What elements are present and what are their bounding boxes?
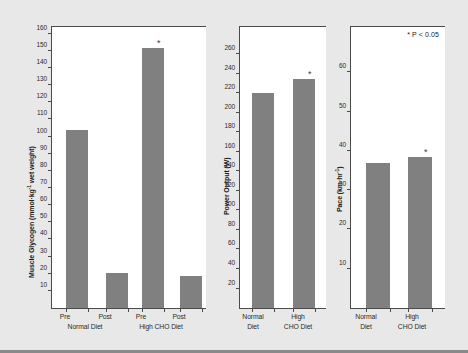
panel1-ytick-label-80: 80 [40, 160, 47, 167]
panel1-y-axis-title-tail: wet weight) [28, 146, 35, 185]
bar-pace-normal-diet [366, 163, 390, 308]
panel3-ytick-30 [347, 189, 351, 190]
panel3-y-axis-title-tail: ) [336, 167, 343, 169]
xlabel-post-high-cho: Post [165, 313, 193, 320]
bar-power-high-cho-diet [293, 79, 315, 308]
panel2-ytick-label-240: 240 [224, 63, 235, 70]
figure-container: Muscle Glycogen (mmol·kg-1 wet weight) 1… [0, 0, 468, 353]
panel3-xtick-3 [432, 308, 433, 312]
panel1-ytick-label-20: 20 [40, 263, 47, 270]
significance-marker-pre-high-cho: * [157, 40, 161, 46]
p-value-annotation: * P < 0.05 [407, 31, 439, 38]
panel2-ytick-label-160: 160 [224, 141, 235, 148]
panel3-plot-area: 10 20 30 40 50 60 * [350, 26, 445, 309]
panel1-ytick-label-100: 100 [36, 126, 47, 133]
panel3-xtick-2 [408, 308, 409, 312]
significance-marker-power-high-cho: * [308, 71, 312, 77]
panel1-plot-inner: 10 20 30 40 50 60 70 80 90 100 [52, 27, 206, 308]
panel3-ytick-label-20: 20 [339, 219, 346, 226]
panel2-xtick-0 [252, 308, 253, 312]
panel1-xtick-5 [164, 308, 165, 312]
bar-post-high-cho-diet [180, 276, 202, 308]
panel1-ytick-label-140: 140 [36, 57, 47, 64]
xlabel-pace-high-cho-line2: CHO Diet [388, 323, 436, 330]
panel1-ytick-50 [48, 221, 52, 222]
panel3-y-axis-title: Pace (km·hr-1) [334, 167, 343, 213]
panel-pace: Pace (km·hr-1) 10 20 30 40 50 60 * [330, 0, 468, 353]
xlabel-power-normal-line2: Diet [232, 323, 274, 330]
panel1-ytick-130 [48, 84, 52, 85]
panel3-ytick-40 [347, 150, 351, 151]
panel2-ytick-120 [236, 190, 240, 191]
xlabel-power-high-cho-line2: CHO Diet [275, 323, 321, 330]
panel1-ytick-140 [48, 67, 52, 68]
xlabel-pre-normal: Pre [51, 313, 79, 320]
panel2-ytick-160 [236, 151, 240, 152]
panel1-ytick-label-90: 90 [40, 143, 47, 150]
xlabel-post-normal: Post [91, 313, 119, 320]
panel2-ytick-220 [236, 92, 240, 93]
panel1-ytick-60 [48, 204, 52, 205]
panel1-ytick-150 [48, 50, 52, 51]
panel1-xtick-3 [128, 308, 129, 312]
panel2-ytick-label-140: 140 [224, 161, 235, 168]
panel2-ytick-label-20: 20 [228, 278, 235, 285]
panel3-ytick-label-50: 50 [339, 101, 346, 108]
panel1-ytick-70 [48, 187, 52, 188]
panel1-ytick-label-40: 40 [40, 229, 47, 236]
panel1-xtick-4 [142, 308, 143, 312]
panel1-ytick-110 [48, 118, 52, 119]
panel1-ytick-80 [48, 170, 52, 171]
panel2-ytick-label-180: 180 [224, 122, 235, 129]
panel2-ytick-20 [236, 288, 240, 289]
panel3-ytick-label-40: 40 [339, 140, 346, 147]
panel1-ytick-90 [48, 153, 52, 154]
panel2-ytick-label-60: 60 [228, 239, 235, 246]
panel2-ytick-label-200: 200 [224, 102, 235, 109]
panel1-xtick-2 [106, 308, 107, 312]
panel1-ytick-label-150: 150 [36, 40, 47, 47]
panel2-xtick-3 [315, 308, 316, 312]
panel3-ytick-50 [347, 111, 351, 112]
panel1-xtick-6 [180, 308, 181, 312]
panel1-ytick-10 [48, 290, 52, 291]
panel1-ytick-label-60: 60 [40, 195, 47, 202]
panel3-xtick-0 [366, 308, 367, 312]
panel-muscle-glycogen: Muscle Glycogen (mmol·kg-1 wet weight) 1… [0, 0, 215, 353]
panel3-plot-inner: 10 20 30 40 50 60 * [351, 27, 445, 308]
panel2-ytick-180 [236, 131, 240, 132]
bar-pace-high-cho-diet [408, 157, 432, 308]
xgroup-label-high-cho-diet: High CHO Diet [130, 323, 192, 330]
bar-pre-normal-diet [66, 130, 88, 308]
panel3-ytick-10 [347, 268, 351, 269]
panel3-ytick-label-60: 60 [339, 62, 346, 69]
xlabel-pace-normal-line1: Normal [344, 313, 388, 320]
panel1-xtick-1 [88, 308, 89, 312]
panel2-xtick-2 [293, 308, 294, 312]
panel3-y-axis-title-sup: -1 [334, 169, 340, 173]
panel1-ytick-40 [48, 238, 52, 239]
panel3-xtick-1 [390, 308, 391, 312]
panel1-plot-area: 10 20 30 40 50 60 70 80 90 100 [51, 26, 206, 309]
panel1-ytick-30 [48, 256, 52, 257]
bar-pre-high-cho-diet [142, 48, 164, 308]
xlabel-power-normal-line1: Normal [232, 313, 274, 320]
panel3-ytick-label-30: 30 [339, 180, 346, 187]
panel1-ytick-label-110: 110 [37, 109, 47, 116]
panel2-plot-area: 20 40 60 80 100 120 140 160 180 200 [239, 26, 326, 309]
panel1-y-axis-title: Muscle Glycogen (mmol·kg-1 wet weight) [26, 146, 35, 278]
panel2-ytick-40 [236, 268, 240, 269]
panel2-ytick-60 [236, 248, 240, 249]
panel1-ytick-label-50: 50 [40, 212, 47, 219]
bar-post-normal-diet [106, 273, 128, 308]
panel2-ytick-label-260: 260 [224, 44, 235, 51]
panel1-ytick-label-160: 160 [36, 23, 47, 30]
panel1-ytick-100 [48, 136, 52, 137]
xlabel-power-high-cho-line1: High [275, 313, 321, 320]
xlabel-pre-high-cho: Pre [127, 313, 155, 320]
panel2-ytick-140 [236, 170, 240, 171]
panel2-xtick-1 [274, 308, 275, 312]
panel2-ytick-100 [236, 209, 240, 210]
panel2-ytick-label-120: 120 [224, 180, 235, 187]
panel3-ytick-60 [347, 71, 351, 72]
